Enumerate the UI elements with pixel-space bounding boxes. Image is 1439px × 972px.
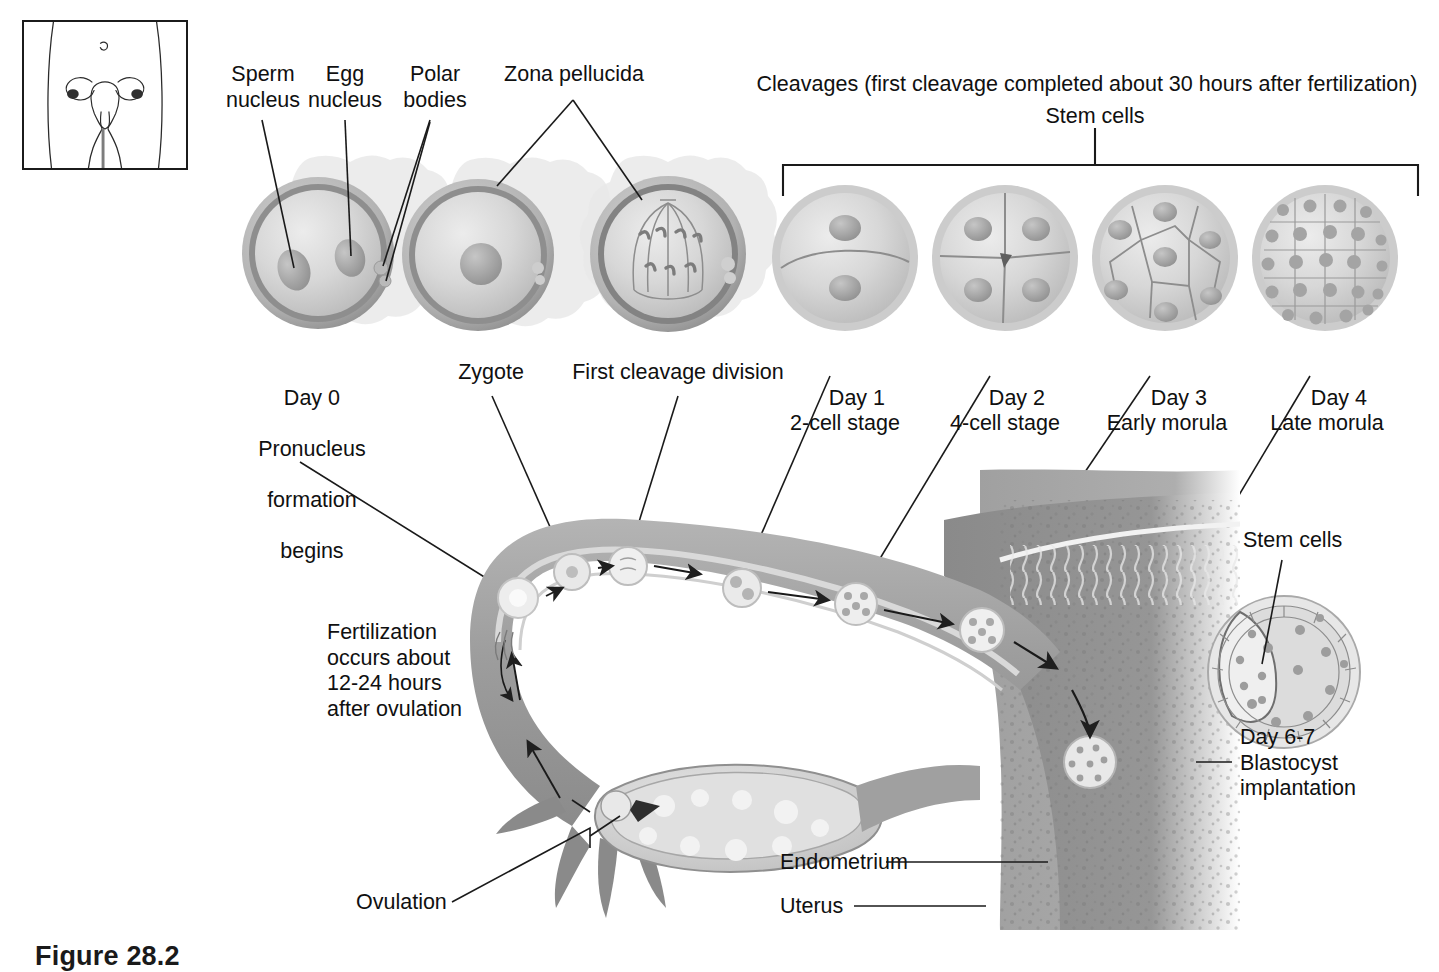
figure-caption: Figure 28.2	[35, 941, 180, 972]
cell-day-4-late-morula	[1252, 185, 1398, 331]
stage-label-day-1: Day 12-cell stage	[773, 360, 917, 462]
stage-label-zygote: Zygote	[426, 360, 556, 386]
cell-first-cleavage	[580, 155, 777, 332]
label-endometrium: Endometrium	[780, 850, 980, 876]
stage-label-day-0: Day 0 Pronucleus formation begins	[228, 360, 372, 590]
label-polar-bodies: Polarbodies	[386, 62, 484, 113]
cell-day-3-early-morula	[1092, 185, 1238, 331]
label-fertilization: Fertilization occurs about 12-24 hours a…	[327, 620, 547, 722]
stage-label-first-cleavage: First cleavage division	[560, 360, 796, 386]
cell-day-1-2cell	[772, 185, 918, 331]
label-ovulation: Ovulation	[356, 890, 516, 916]
label-blastocyst-implantation: Day 6-7 Blastocyst implantation	[1240, 725, 1439, 802]
stage-label-day-3: Day 3Early morula	[1088, 360, 1246, 462]
cell-day-2-4cell	[932, 185, 1078, 331]
stage-label-day-2: Day 24-cell stage	[933, 360, 1077, 462]
stage-label-day-4: Day 4Late morula	[1248, 360, 1406, 462]
label-egg-nucleus: Eggnucleus	[292, 62, 398, 113]
label-stem-cells-top: Stem cells	[1020, 104, 1170, 130]
label-uterus: Uterus	[780, 894, 940, 920]
label-cleavages-header: Cleavages (first cleavage completed abou…	[736, 72, 1438, 98]
label-zona-pellucida: Zona pellucida	[487, 62, 661, 88]
label-stem-cells-blastocyst: Stem cells	[1243, 528, 1403, 554]
